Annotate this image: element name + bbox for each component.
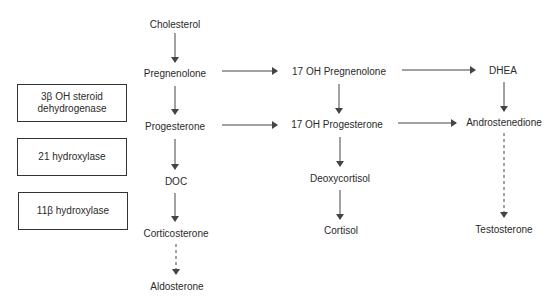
node-dhea: DHEA [489, 65, 517, 76]
node-androstenedione: Androstenedione [466, 117, 542, 128]
node-testosterone: Testosterone [475, 224, 532, 235]
node-17oh-pregnenolone: 17 OH Pregnenolone [292, 66, 386, 77]
node-doc: DOC [165, 176, 187, 187]
pathway-arrows [0, 0, 556, 302]
node-corticosterone: Corticosterone [143, 228, 208, 239]
node-cholesterol: Cholesterol [150, 19, 201, 30]
node-deoxycortisol: Deoxycortisol [310, 173, 370, 184]
node-cortisol: Cortisol [324, 225, 358, 236]
node-progesterone: Progesterone [145, 121, 205, 132]
node-pregnenolone: Pregnenolone [144, 68, 206, 79]
node-17oh-progesterone: 17 OH Progesterone [291, 119, 383, 130]
node-aldosterone: Aldosterone [150, 281, 203, 292]
